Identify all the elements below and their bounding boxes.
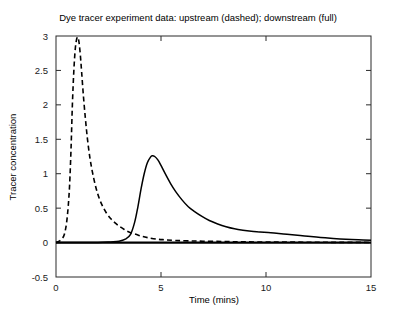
y-tick-label: 3: [43, 31, 48, 42]
y-tick-label: 2.5: [35, 65, 48, 76]
y-tick-label: 2: [43, 99, 48, 110]
x-tick-label: 15: [366, 282, 377, 293]
y-tick-label: 1: [43, 168, 48, 179]
x-tick-label: 0: [53, 282, 58, 293]
y-axis-label: Tracer concentration: [7, 114, 18, 201]
y-tick-label: 0.5: [35, 203, 48, 214]
chart-figure: Dye tracer experiment data: upstream (da…: [0, 0, 396, 319]
y-tick-label: 0: [43, 237, 48, 248]
y-tick-label: -0.5: [32, 272, 48, 283]
chart-background: [0, 0, 396, 319]
y-tick-label: 1.5: [35, 134, 48, 145]
x-tick-label: 5: [158, 282, 163, 293]
x-axis-label: Time (mins): [189, 294, 239, 305]
chart-title: Dye tracer experiment data: upstream (da…: [59, 12, 337, 23]
tracer-concentration-line-chart: Dye tracer experiment data: upstream (da…: [0, 0, 396, 319]
x-tick-label: 10: [261, 282, 272, 293]
